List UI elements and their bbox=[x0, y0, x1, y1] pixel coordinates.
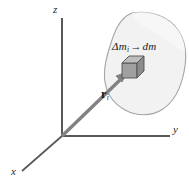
mass-element-front-face bbox=[122, 63, 137, 78]
y-axis-label: y bbox=[173, 124, 178, 135]
figure-canvas bbox=[0, 0, 189, 185]
position-vector-label: ri bbox=[101, 88, 109, 102]
mass-element-label: Δmi→dm bbox=[112, 41, 156, 54]
x-axis-label: x bbox=[11, 166, 16, 177]
mass-element-dm-symbol: dm bbox=[143, 40, 157, 52]
position-vector-subscript: i bbox=[106, 93, 108, 102]
position-vector-shaft bbox=[62, 79, 121, 136]
z-axis-label: z bbox=[53, 4, 57, 15]
mass-element-delta-symbol: Δm bbox=[112, 40, 127, 52]
physics-figure: z y x Δmi→dm ri bbox=[0, 0, 189, 185]
x-axis-line bbox=[22, 136, 62, 171]
arrow-right-icon: → bbox=[129, 40, 142, 52]
